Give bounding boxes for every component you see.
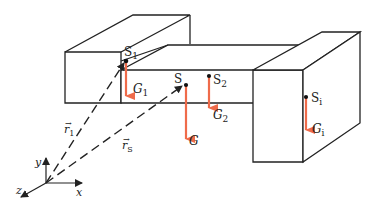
label-r1: r1	[64, 123, 74, 138]
diagram-canvas: S1 S S2 Si G1 G G2 Gi → r1 → rS y x z	[0, 0, 368, 208]
label-axis-z: z	[15, 184, 22, 197]
label-s: S	[174, 72, 182, 86]
point-s2	[207, 74, 211, 78]
label-s1: S1	[124, 45, 138, 61]
point-s1	[124, 59, 129, 64]
label-g: G	[189, 134, 199, 148]
axis-z	[21, 183, 46, 197]
composite-body-diagram: S1 S S2 Si G1 G G2 Gi → r1 → rS y x z	[0, 0, 368, 208]
point-si	[304, 95, 308, 99]
label-axis-x: x	[76, 186, 83, 199]
point-s	[184, 83, 188, 87]
label-g2: G2	[213, 108, 228, 124]
label-axis-y: y	[34, 156, 42, 169]
